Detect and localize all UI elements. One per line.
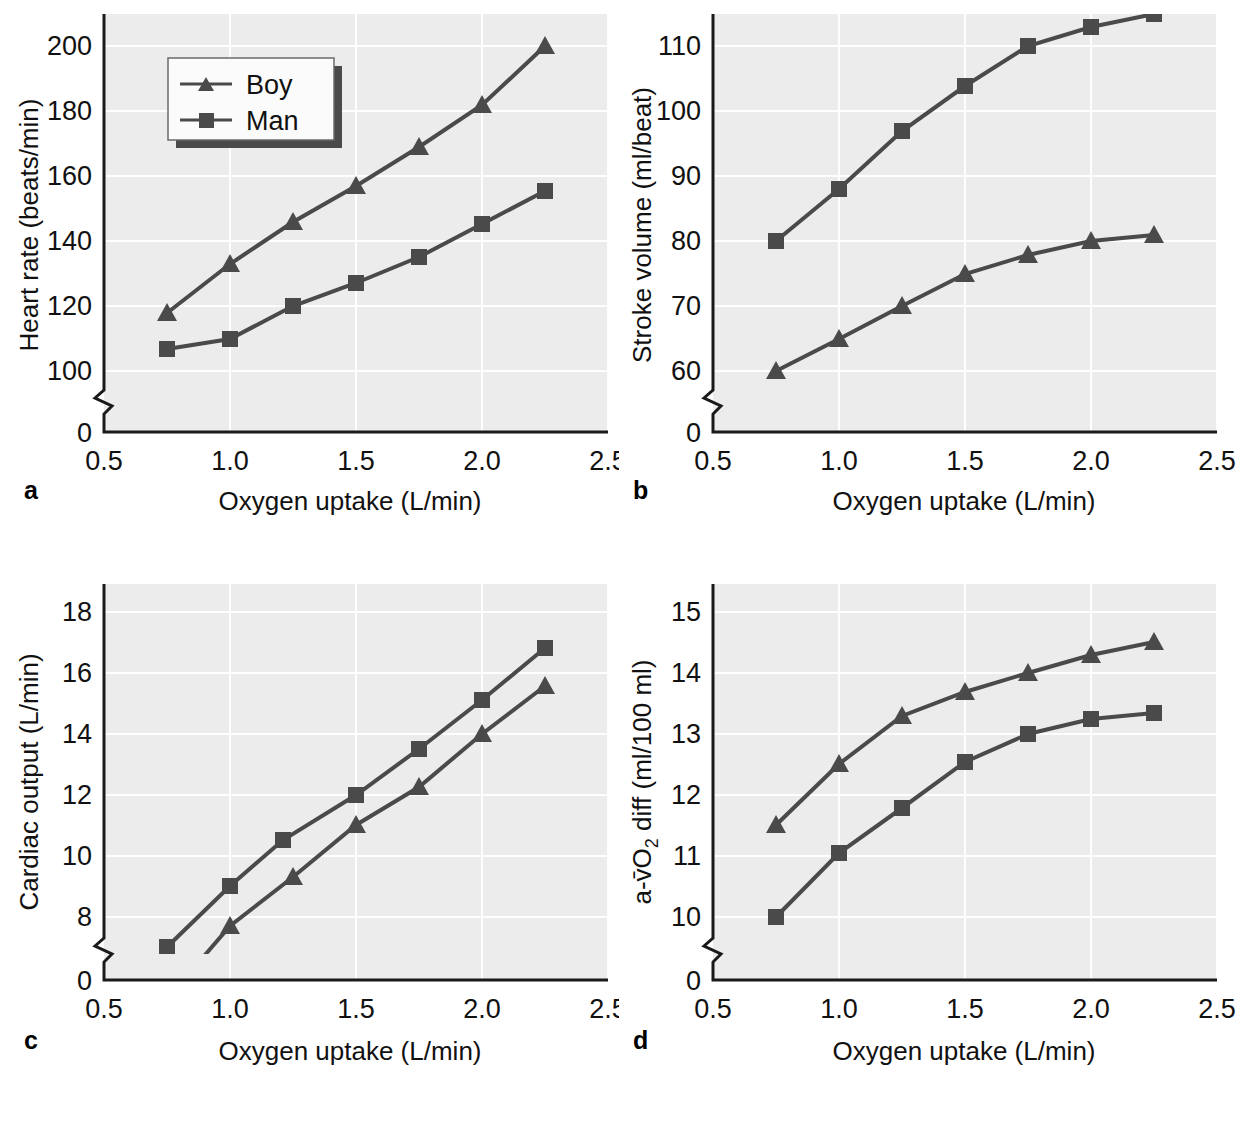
heart-rate-panel: Boy Man 200 180 160 140 120 100 0 0.5: [0, 0, 619, 560]
y-axis-label-suffix: diff (ml/100 ml): [627, 659, 657, 838]
svg-text:90: 90: [671, 161, 701, 191]
svg-text:200: 200: [47, 31, 92, 61]
y-tick-labels: 15 14 13 12 11 10 0: [671, 597, 701, 996]
svg-text:0.5: 0.5: [694, 446, 732, 476]
y-tick-labels: 110 100 90 80 70 60 0: [656, 31, 701, 448]
x-axis-label: Oxygen uptake (L/min): [832, 486, 1095, 516]
legend-label-man: Man: [246, 106, 299, 136]
svg-text:2.5: 2.5: [1198, 994, 1236, 1024]
svg-text:10: 10: [62, 841, 92, 871]
svg-text:15: 15: [671, 597, 701, 627]
svg-text:2.5: 2.5: [589, 994, 619, 1024]
y-axis-label-subscript: 2: [642, 838, 662, 848]
y-axis-label: a-v̄O2 diff (ml/100 ml): [627, 659, 662, 904]
svg-text:11: 11: [673, 841, 701, 871]
chart-legend: Boy Man: [168, 58, 342, 148]
y-zero-tick: 0: [686, 418, 701, 448]
svg-text:1.5: 1.5: [337, 994, 375, 1024]
svg-text:120: 120: [47, 291, 92, 321]
stroke-volume-chart: 110 100 90 80 70 60 0 0.5 1.0 1.5 2.0 2.…: [619, 0, 1239, 560]
svg-text:80: 80: [671, 226, 701, 256]
stroke-volume-panel: 110 100 90 80 70 60 0 0.5 1.0 1.5 2.0 2.…: [619, 0, 1239, 560]
square-marker-icon: [199, 113, 214, 128]
svg-text:18: 18: [62, 597, 92, 627]
svg-text:1.0: 1.0: [211, 994, 249, 1024]
svg-text:14: 14: [62, 719, 92, 749]
y-zero-tick: 0: [686, 966, 701, 996]
legend-label-boy: Boy: [246, 70, 293, 100]
y-axis-label: Cardiac output (L/min): [14, 653, 44, 910]
x-axis-label: Oxygen uptake (L/min): [218, 486, 481, 516]
svg-text:1.0: 1.0: [211, 446, 249, 476]
cardiac-output-panel: 18 16 14 12 10 8 0 0.5 1.0 1.5 2.0 2.5 O…: [0, 560, 619, 1123]
svg-text:100: 100: [47, 356, 92, 386]
x-tick-labels: 0.5 1.0 1.5 2.0 2.5: [85, 446, 619, 476]
x-tick-labels: 0.5 1.0 1.5 2.0 2.5: [85, 994, 619, 1024]
x-axis-label: Oxygen uptake (L/min): [218, 1036, 481, 1066]
svg-text:1.5: 1.5: [946, 994, 984, 1024]
svg-text:0.5: 0.5: [85, 446, 123, 476]
panel-letter-a: a: [24, 478, 38, 503]
y-tick-labels: 200 180 160 140 120 100 0: [47, 31, 92, 448]
svg-text:8: 8: [77, 902, 92, 932]
svg-text:0.5: 0.5: [85, 994, 123, 1024]
svg-text:2.5: 2.5: [1198, 446, 1236, 476]
svg-text:0.5: 0.5: [694, 994, 732, 1024]
panel-letter-c: c: [24, 1028, 38, 1053]
svg-text:2.5: 2.5: [589, 446, 619, 476]
x-tick-labels: 0.5 1.0 1.5 2.0 2.5: [694, 994, 1236, 1024]
x-axis-label: Oxygen uptake (L/min): [832, 1036, 1095, 1066]
cardiac-output-chart: 18 16 14 12 10 8 0 0.5 1.0 1.5 2.0 2.5 O…: [0, 560, 619, 1123]
svg-text:70: 70: [671, 291, 701, 321]
svg-text:2.0: 2.0: [1072, 446, 1110, 476]
svg-text:10: 10: [671, 902, 701, 932]
svg-text:1.5: 1.5: [337, 446, 375, 476]
y-axis-label-prefix: a-v̄O: [627, 848, 657, 904]
svg-text:1.0: 1.0: [820, 446, 858, 476]
avo2-diff-panel: 15 14 13 12 11 10 0 0.5 1.0 1.5 2.0 2.5 …: [619, 560, 1239, 1123]
y-zero-tick: 0: [77, 418, 92, 448]
svg-text:160: 160: [47, 161, 92, 191]
svg-text:1.0: 1.0: [820, 994, 858, 1024]
y-tick-labels: 18 16 14 12 10 8 0: [62, 597, 92, 996]
avo2-diff-chart: 15 14 13 12 11 10 0 0.5 1.0 1.5 2.0 2.5 …: [619, 560, 1239, 1123]
svg-text:2.0: 2.0: [463, 994, 501, 1024]
svg-text:2.0: 2.0: [463, 446, 501, 476]
svg-text:110: 110: [658, 31, 701, 61]
svg-text:1.5: 1.5: [946, 446, 984, 476]
svg-text:180: 180: [47, 96, 92, 126]
svg-text:16: 16: [62, 658, 92, 688]
svg-text:140: 140: [47, 226, 92, 256]
svg-text:100: 100: [656, 96, 701, 126]
svg-text:13: 13: [671, 719, 701, 749]
y-axis-label: Heart rate (beats/min): [14, 99, 44, 352]
y-zero-tick: 0: [77, 966, 92, 996]
heart-rate-chart: Boy Man 200 180 160 140 120 100 0 0.5: [0, 0, 619, 560]
svg-text:2.0: 2.0: [1072, 994, 1110, 1024]
svg-text:60: 60: [671, 356, 701, 386]
svg-text:14: 14: [671, 658, 701, 688]
figure-panel-grid: Boy Man 200 180 160 140 120 100 0 0.5: [0, 0, 1239, 1123]
panel-letter-b: b: [633, 478, 648, 503]
x-tick-labels: 0.5 1.0 1.5 2.0 2.5: [694, 446, 1236, 476]
svg-text:12: 12: [62, 780, 92, 810]
panel-letter-d: d: [633, 1028, 648, 1053]
svg-text:a-v̄O2 diff (ml/100 ml): a-v̄O2 diff (ml/100 ml): [627, 659, 662, 904]
y-axis-label: Stroke volume (ml/beat): [627, 87, 657, 363]
svg-text:12: 12: [671, 780, 701, 810]
